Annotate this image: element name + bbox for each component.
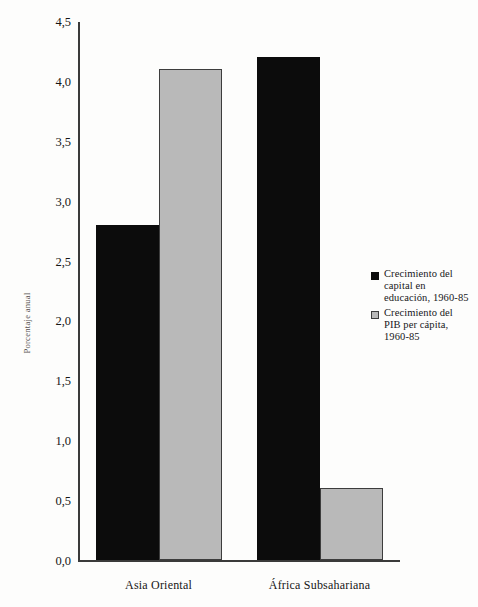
y-axis-tick-label: 3,5 (55, 134, 71, 149)
bar-chart-figure: Porcentaje anual 0,00,51,01,52,02,53,03,… (0, 0, 478, 607)
y-axis-tick-label: 3,0 (55, 194, 71, 209)
bar (96, 225, 159, 560)
legend-label-line: Crecimiento del (384, 307, 453, 319)
legend-swatch-icon (371, 272, 379, 280)
bar (159, 69, 222, 560)
y-axis-title: Porcentaje anual (22, 253, 38, 393)
y-axis-tick-label: 4,0 (55, 74, 71, 89)
y-axis-tick-label: 4,5 (55, 15, 71, 30)
y-axis-tick-label: 0,0 (55, 554, 71, 569)
chart-legend: Crecimiento delcapital eneducación, 1960… (371, 268, 475, 345)
legend-label-line: capital en (384, 280, 469, 292)
legend-item: Crecimiento delPIB per cápita,1960-85 (371, 307, 475, 344)
x-axis-category-label: Asia Oriental (125, 578, 192, 593)
legend-label-line: 1960-85 (384, 331, 453, 343)
y-axis-tick-label: 1,5 (55, 374, 71, 389)
legend-label-line: educación, 1960-85 (384, 292, 469, 304)
y-axis-tick-label: 2,0 (55, 314, 71, 329)
x-axis-category-label: África Subsahariana (269, 578, 370, 593)
bar (320, 488, 383, 560)
y-axis-tick-label: 0,5 (55, 494, 71, 509)
legend-item-label: Crecimiento delPIB per cápita,1960-85 (384, 307, 453, 344)
y-axis-tick-label: 2,5 (55, 254, 71, 269)
plot-area: 0,00,51,01,52,02,53,03,54,04,5 Asia Orie… (78, 22, 400, 561)
y-axis-tick-label: 1,0 (55, 434, 71, 449)
legend-item: Crecimiento delcapital eneducación, 1960… (371, 268, 475, 305)
legend-swatch-icon (371, 311, 379, 319)
legend-item-label: Crecimiento delcapital eneducación, 1960… (384, 268, 469, 305)
x-axis-line (78, 560, 400, 562)
legend-label-line: PIB per cápita, (384, 319, 453, 331)
legend-label-line: Crecimiento del (384, 268, 469, 280)
y-axis-line (78, 22, 80, 561)
bar (257, 57, 320, 560)
